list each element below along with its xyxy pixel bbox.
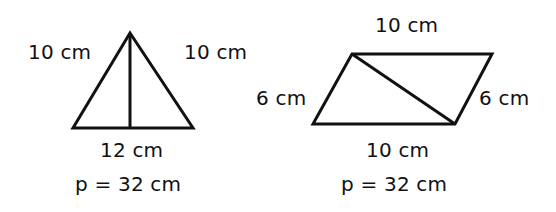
parallelogram-top-side-label: 10 cm <box>375 14 438 36</box>
parallelogram-bottom-side-label: 10 cm <box>366 139 429 161</box>
parallelogram-diagonal <box>352 54 455 124</box>
triangle-base-label: 12 cm <box>100 139 163 161</box>
parallelogram-figure <box>313 54 492 124</box>
parallelogram-left-side-label: 6 cm <box>256 87 306 109</box>
triangle-left-side-label: 10 cm <box>28 41 91 63</box>
triangle-perimeter-label: p = 32 cm <box>75 173 181 195</box>
parallelogram-perimeter-label: p = 32 cm <box>341 173 447 195</box>
parallelogram-right-side-label: 6 cm <box>479 87 529 109</box>
triangle-right-side-label: 10 cm <box>184 41 247 63</box>
